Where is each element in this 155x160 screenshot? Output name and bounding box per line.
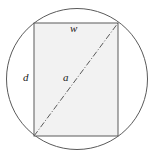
- width-label: w: [70, 23, 77, 34]
- height-label: d: [23, 72, 29, 83]
- diagonal-label: a: [63, 72, 69, 83]
- geometry-figure: w d a: [0, 0, 155, 160]
